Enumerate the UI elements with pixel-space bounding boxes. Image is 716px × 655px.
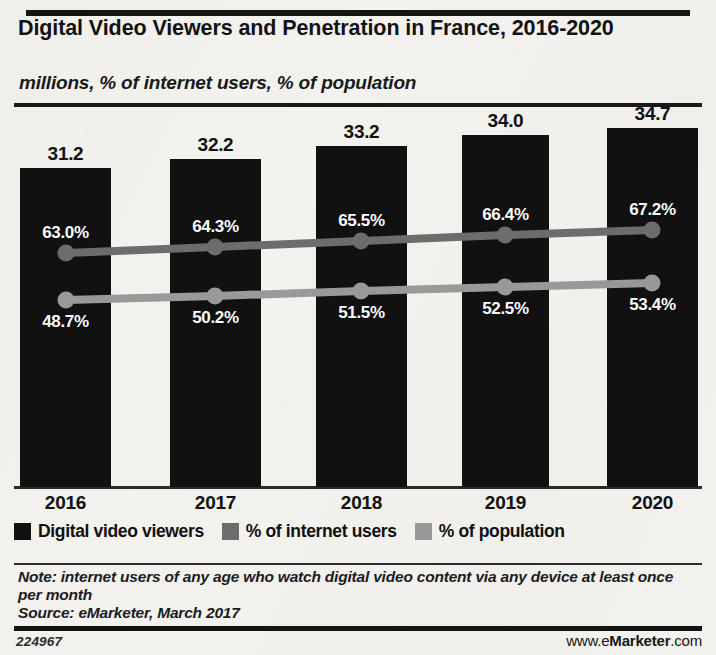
point-label-population-2017: 50.2% bbox=[170, 308, 261, 328]
note-top-rule bbox=[14, 563, 702, 565]
point-label-internet-users-2017: 64.3% bbox=[170, 217, 261, 237]
marker-population-2017 bbox=[207, 288, 224, 305]
legend-internet-users-label: % of internet users bbox=[246, 521, 397, 542]
legend-population-swatch-icon bbox=[415, 523, 432, 540]
chart-source-text: Source: eMarketer, March 2017 bbox=[18, 604, 694, 622]
emarketer-chart-card: Digital Video Viewers and Penetration in… bbox=[0, 0, 716, 655]
point-label-internet-users-2016: 63.0% bbox=[20, 223, 111, 243]
point-label-internet-users-2019: 66.4% bbox=[462, 205, 549, 225]
point-label-internet-users-2018: 65.5% bbox=[316, 211, 407, 231]
marker-population-2020 bbox=[644, 275, 661, 292]
legend-population[interactable]: % of population bbox=[415, 521, 565, 542]
point-label-population-2018: 51.5% bbox=[316, 303, 407, 323]
chart-note-block: Note: internet users of any age who watc… bbox=[18, 568, 694, 622]
point-label-internet-users-2020: 67.2% bbox=[607, 200, 698, 220]
legend-population-label: % of population bbox=[439, 521, 565, 542]
chart-plot-area: 31.2201632.2201733.2201834.0201934.72020… bbox=[0, 0, 716, 500]
point-label-population-2019: 52.5% bbox=[462, 299, 549, 319]
marker-population-2019 bbox=[497, 279, 514, 296]
legend-internet-users[interactable]: % of internet users bbox=[222, 521, 397, 542]
marker-population-2018 bbox=[353, 283, 370, 300]
marker-population-2016 bbox=[58, 292, 75, 309]
marker-internet-users-2018 bbox=[353, 233, 370, 250]
legend-digital-video-viewers-label: Digital video viewers bbox=[38, 521, 204, 542]
url-prefix: www.e bbox=[566, 632, 609, 649]
point-label-population-2016: 48.7% bbox=[20, 312, 111, 332]
marker-internet-users-2017 bbox=[207, 239, 224, 256]
url-brand: Marketer bbox=[609, 632, 670, 649]
chart-note-text: Note: internet users of any age who watc… bbox=[18, 568, 694, 604]
chart-id-number: 224967 bbox=[16, 634, 62, 649]
legend-digital-video-viewers[interactable]: Digital video viewers bbox=[14, 521, 204, 542]
legend-digital-video-viewers-swatch-icon bbox=[14, 523, 31, 540]
url-suffix: .com bbox=[670, 632, 702, 649]
legend-internet-users-swatch-icon bbox=[222, 523, 239, 540]
marker-internet-users-2020 bbox=[644, 222, 661, 239]
line-series-layer bbox=[0, 0, 716, 500]
note-bottom-rule bbox=[14, 626, 702, 631]
point-label-population-2020: 53.4% bbox=[607, 295, 698, 315]
chart-legend: Digital video viewers% of internet users… bbox=[14, 518, 706, 544]
marker-internet-users-2019 bbox=[497, 227, 514, 244]
marker-internet-users-2016 bbox=[58, 245, 75, 262]
emarketer-url: www.eMarketer.com bbox=[566, 632, 702, 649]
